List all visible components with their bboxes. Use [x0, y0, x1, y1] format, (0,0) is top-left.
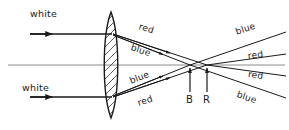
red-ray-upper-right [207, 54, 286, 65]
label-red-lower-right: red [247, 70, 263, 81]
red-ray-from-top [113, 34, 207, 65]
blue-ray-from-bottom [113, 65, 190, 96]
label-focus-red: R [203, 95, 210, 105]
red-ray-lower-right [207, 65, 286, 76]
blue-ray-upper-right [190, 32, 286, 65]
ray-diagram-canvas [0, 0, 289, 130]
label-white-bottom: white [22, 83, 49, 93]
chromatic-aberration-figure: white white red blue blue red blue red r… [0, 0, 289, 130]
label-white-top: white [30, 9, 57, 19]
label-focus-blue: B [186, 95, 193, 105]
red-ray-from-bottom [113, 65, 207, 97]
